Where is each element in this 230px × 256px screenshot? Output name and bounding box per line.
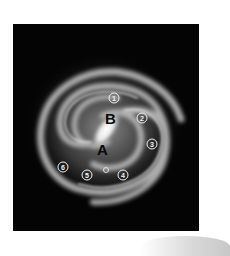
marker-3: 3 (147, 139, 158, 150)
marker-1: 1 (109, 93, 120, 104)
milky-way-spiral-image (13, 24, 199, 231)
marker-6: 6 (58, 162, 69, 173)
marker-4: 4 (118, 170, 129, 181)
sun-position-marker (103, 167, 109, 173)
marker-5: 5 (82, 170, 93, 181)
label-b: B (105, 111, 116, 126)
galaxy-diagram-panel: B A 1 2 3 4 5 6 (13, 24, 199, 231)
page-curl-decoration (140, 236, 230, 256)
marker-2: 2 (137, 113, 148, 124)
label-a: A (97, 142, 108, 157)
